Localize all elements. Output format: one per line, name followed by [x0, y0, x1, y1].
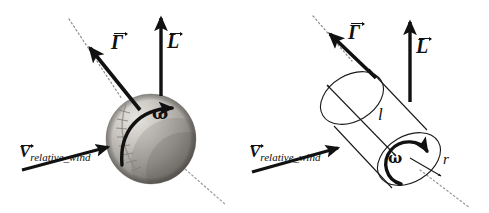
vector-arrow-accent [351, 23, 364, 24]
cylinder-radius-label: r [443, 152, 449, 167]
cylinder-length-arrow [327, 85, 396, 156]
magnus-effect-figure: Γ L ω Vrelative_wind Γ L l ω r Vrelative… [0, 0, 489, 213]
cylinder-lift-label: L [416, 36, 428, 56]
cylinder-body [311, 61, 450, 196]
sphere-wind-label: Vrelative_wind [19, 143, 90, 160]
vector-arrow-accent [251, 145, 263, 146]
cylinder-length-label: l [378, 106, 383, 123]
cylinder-circulation-label: Γ [348, 22, 360, 42]
sphere-spin-label: ω [152, 105, 168, 122]
vector-arrow-accent [419, 38, 431, 39]
sphere-circulation-arrow [90, 48, 140, 110]
sphere-lift-label: L [167, 31, 179, 51]
diagram-canvas [0, 0, 489, 213]
cylinder-spin-label: ω [388, 151, 402, 166]
vector-arrow-accent [170, 33, 182, 34]
cylinder-radius-arrow [410, 158, 441, 176]
vector-arrow-accent [114, 33, 127, 34]
vector-arrow-accent [21, 145, 33, 146]
cylinder-wind-label: Vrelative_wind [249, 143, 320, 160]
sphere-circulation-label: Γ [111, 32, 123, 52]
